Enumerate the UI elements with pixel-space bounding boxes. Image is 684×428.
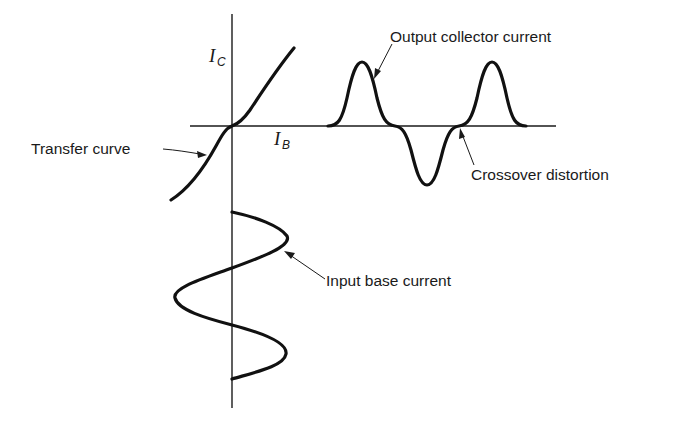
svg-text:I: I — [273, 128, 282, 149]
input-base-current-label: Input base current — [326, 272, 452, 289]
output-collector-current-label: Output collector current — [390, 28, 552, 45]
arrowhead-icon — [459, 128, 465, 139]
arrowhead-icon — [374, 68, 381, 79]
svg-text:B: B — [282, 138, 290, 152]
transfer-curve-leader — [163, 149, 200, 154]
output-collector-current-leader — [377, 44, 392, 73]
crossover-distortion-leader — [462, 134, 474, 165]
svg-text:I: I — [208, 45, 217, 66]
crossover-distortion-diagram: I C I B Transfer curve Output collector … — [0, 0, 684, 428]
arrowhead-icon — [197, 151, 207, 158]
axis-label-ic: I C — [208, 45, 226, 69]
transfer-curve-label: Transfer curve — [31, 140, 130, 157]
axis-label-ib: I B — [273, 128, 290, 152]
svg-text:C: C — [217, 55, 226, 69]
input-base-current-leader — [290, 255, 325, 279]
input-base-current-waveform — [175, 212, 288, 379]
crossover-distortion-label: Crossover distortion — [471, 166, 609, 183]
